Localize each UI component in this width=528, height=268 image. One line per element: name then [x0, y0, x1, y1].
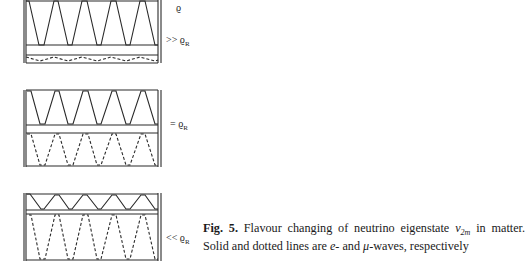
- condition-text: << ϱ: [166, 232, 185, 243]
- condition-subscript: R: [185, 238, 190, 246]
- panel-bottom-condition: << ϱR: [166, 232, 190, 246]
- panel-middle-condition: = ϱR: [170, 118, 188, 132]
- condition-subscript: R: [185, 40, 190, 48]
- panel-top: [24, 0, 161, 63]
- figure-label: Fig. 5.: [203, 221, 238, 235]
- figure-caption: Fig. 5. Flavour changing of neutrino eig…: [203, 222, 525, 254]
- mu-wave-dashed: [26, 57, 158, 61]
- condition-text: >> ϱ: [166, 34, 185, 45]
- condition-text: = ϱ: [170, 118, 183, 129]
- nu-symbol: ν2m: [455, 221, 470, 235]
- panel-top-condition: >> ϱR: [166, 34, 190, 48]
- e-wave-solid: [27, 91, 158, 124]
- caption-text-4: -waves, respectively: [369, 239, 469, 253]
- mu-wave-dashed: [29, 215, 158, 259]
- caption-text-3: - and: [335, 239, 363, 253]
- panel-middle: [24, 90, 161, 167]
- panel-bottom: [24, 193, 161, 261]
- e-wave-solid: [26, 1, 158, 45]
- nu-subscript: 2m: [461, 228, 471, 237]
- mu-wave-dashed: [27, 134, 158, 165]
- e-wave-solid: [27, 194, 158, 209]
- figure-5: ϱ >> ϱR = ϱR << ϱR Fig. 5. Flavour chang…: [0, 0, 528, 268]
- condition-subscript: R: [183, 124, 188, 132]
- caption-text-1: Flavour changing of neutrino eigenstate: [238, 221, 455, 235]
- rho-label: ϱ: [176, 2, 181, 13]
